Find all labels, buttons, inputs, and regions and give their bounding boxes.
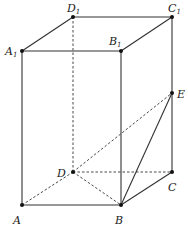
point-C xyxy=(170,170,174,174)
label-E: E xyxy=(176,88,185,101)
label-D: D xyxy=(56,167,66,180)
label-A1: A1 xyxy=(4,45,17,59)
hidden-edge-D-E xyxy=(73,93,172,172)
prism-diagram: ABCDA1B1C1D1E xyxy=(0,0,188,239)
solid-edges xyxy=(22,17,172,205)
label-B: B xyxy=(114,214,123,227)
label-C: C xyxy=(168,181,177,194)
point-A xyxy=(20,203,24,207)
label-B1: B1 xyxy=(108,35,122,49)
point-A1 xyxy=(20,49,24,53)
dashed-edges xyxy=(22,17,172,205)
hidden-edge-D-B xyxy=(73,172,121,205)
vertex-points xyxy=(20,15,174,207)
point-D xyxy=(71,170,75,174)
point-C1 xyxy=(170,15,174,19)
edge-D1-A1 xyxy=(22,17,73,51)
label-C1: C1 xyxy=(168,2,181,16)
point-B1 xyxy=(119,49,123,53)
vertex-labels: ABCDA1B1C1D1E xyxy=(4,2,185,227)
edge-B1-C1 xyxy=(121,17,172,51)
label-A: A xyxy=(12,214,21,227)
point-D1 xyxy=(71,15,75,19)
point-B xyxy=(119,203,123,207)
point-E xyxy=(170,91,174,95)
label-D1: D1 xyxy=(66,2,80,16)
